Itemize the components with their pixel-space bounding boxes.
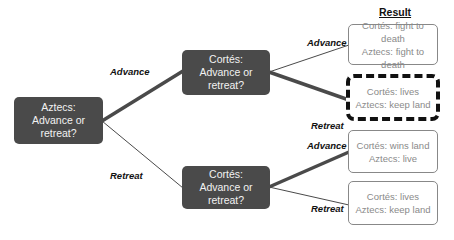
result-aztecs: Aztecs: live [369, 152, 417, 165]
cortes-decision-node-top: Cortés: Advance or retreat? [182, 50, 270, 95]
edge-label-top-advance: Advance [307, 37, 347, 48]
result-cortes: Cortés: lives [367, 85, 419, 98]
edge-label-top-retreat: Retreat [311, 120, 344, 131]
node-line: retreat? [40, 127, 76, 140]
result-aztecs: Aztecs: fight to death [349, 45, 437, 71]
edge-label-bottom-retreat: Retreat [311, 203, 344, 214]
aztecs-decision-node: Aztecs: Advance or retreat? [14, 97, 103, 144]
node-line: Advance or [32, 114, 85, 127]
result-aztecs: Aztecs: keep land [356, 98, 431, 111]
result-header: Result [379, 6, 411, 18]
edge-root-advance [102, 71, 183, 121]
result-cortes: Cortés: fight to death [349, 19, 437, 45]
result-box-advance-advance: Cortés: fight to death Aztecs: fight to … [348, 24, 438, 65]
result-cortes: Cortés: lives [367, 190, 419, 203]
node-line: Aztecs: [41, 101, 75, 114]
result-box-retreat-advance: Cortés: wins land Aztecs: live [348, 130, 438, 173]
edge-bottom-advance [269, 152, 349, 187]
result-aztecs: Aztecs: keep land [356, 203, 431, 216]
node-line: Cortés: [209, 168, 243, 181]
edge-top-retreat [269, 72, 349, 100]
result-box-advance-retreat-equilibrium: Cortés: lives Aztecs: keep land [346, 74, 440, 121]
edge-label-root-advance: Advance [110, 66, 150, 77]
edge-top-advance [269, 45, 349, 72]
node-line: Cortés: [209, 53, 243, 66]
node-line: Advance or [199, 181, 252, 194]
result-cortes: Cortés: wins land [357, 139, 430, 152]
node-line: retreat? [208, 79, 244, 92]
node-line: Advance or [199, 66, 252, 79]
node-line: retreat? [208, 194, 244, 207]
cortes-decision-node-bottom: Cortés: Advance or retreat? [182, 166, 270, 209]
result-box-retreat-retreat: Cortés: lives Aztecs: keep land [348, 181, 438, 225]
edge-label-root-retreat: Retreat [110, 170, 143, 181]
edge-label-bottom-advance: Advance [307, 140, 347, 151]
